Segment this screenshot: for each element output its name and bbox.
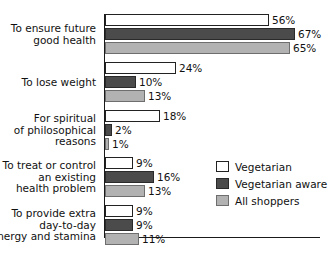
bar-vegetarian-aware — [105, 76, 136, 88]
legend-swatch-vegetarian-aware-icon — [216, 178, 229, 189]
legend-label: Vegetarian — [235, 161, 292, 173]
bar-value-label: 9% — [136, 219, 153, 231]
legend-label: Vegetarian aware — [235, 178, 327, 190]
bar-value-label: 10% — [139, 76, 162, 88]
bar-value-label: 18% — [163, 110, 186, 122]
bar-value-label: 9% — [136, 205, 153, 217]
bar-value-label: 65% — [293, 42, 316, 54]
category-label: To provide extra day-to-day energy and s… — [0, 208, 96, 243]
bar-vegetarian-aware — [105, 171, 154, 183]
chart-legend: Vegetarian Vegetarian aware All shoppers — [216, 159, 327, 210]
legend-item-all-shoppers: All shoppers — [216, 193, 327, 208]
bar-value-label: 13% — [148, 90, 171, 102]
bar-value-label: 2% — [115, 124, 132, 136]
bar-row: 1% — [105, 138, 129, 150]
bar-row: 10% — [105, 76, 162, 88]
bar-row: 13% — [105, 90, 171, 102]
bar-vegetarian — [105, 62, 176, 74]
category-label: To lose weight — [0, 77, 96, 89]
bar-all-shoppers — [105, 90, 145, 102]
bar-value-label: 16% — [157, 171, 180, 183]
bar-value-label: 67% — [298, 28, 321, 40]
bar-row: 9% — [105, 157, 153, 169]
bar-vegetarian-aware — [105, 28, 295, 40]
bar-vegetarian — [105, 205, 133, 217]
bar-value-label: 13% — [148, 185, 171, 197]
bar-row: 13% — [105, 185, 171, 197]
bar-value-label: 9% — [136, 157, 153, 169]
bar-all-shoppers — [105, 42, 290, 54]
bar-row: 67% — [105, 28, 321, 40]
bar-all-shoppers — [105, 233, 139, 245]
bar-row: 9% — [105, 219, 153, 231]
bar-vegetarian — [105, 110, 160, 122]
bar-row: 2% — [105, 124, 132, 136]
bar-vegetarian-aware — [105, 219, 133, 231]
bar-row: 16% — [105, 171, 180, 183]
legend-item-vegetarian: Vegetarian — [216, 159, 327, 174]
bar-vegetarian-aware — [105, 124, 112, 136]
bar-row: 11% — [105, 233, 165, 245]
bar-vegetarian — [105, 14, 269, 26]
category-label: For spiritual of philosophical reasons — [0, 113, 96, 148]
legend-item-vegetarian-aware: Vegetarian aware — [216, 176, 327, 191]
bar-value-label: 56% — [272, 14, 295, 26]
legend-label: All shoppers — [235, 195, 299, 207]
bar-all-shoppers — [105, 138, 109, 150]
bar-row: 9% — [105, 205, 153, 217]
bar-value-label: 11% — [142, 233, 165, 245]
bar-all-shoppers — [105, 185, 145, 197]
bar-row: 18% — [105, 110, 186, 122]
bar-value-label: 24% — [179, 62, 202, 74]
legend-swatch-vegetarian-icon — [216, 161, 229, 172]
category-label: To treat or control an existing health p… — [0, 160, 96, 195]
bar-value-label: 1% — [112, 138, 129, 150]
category-label: To ensure future good health — [0, 23, 96, 46]
horizontal-bar-chart: To ensure future good health 56% 67% 65%… — [0, 0, 335, 257]
bar-row: 65% — [105, 42, 316, 54]
bar-row: 56% — [105, 14, 295, 26]
bar-row: 24% — [105, 62, 202, 74]
legend-swatch-all-shoppers-icon — [216, 195, 229, 206]
bar-vegetarian — [105, 157, 133, 169]
